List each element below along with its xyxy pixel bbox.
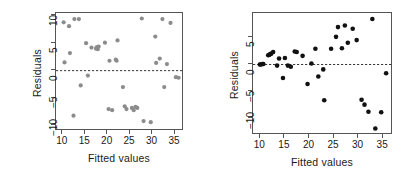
y-tick-label: 0 [245, 69, 256, 75]
y-tick-mark [51, 42, 55, 43]
x-tick-mark [333, 134, 334, 138]
y-tick-label: −10 [245, 112, 256, 129]
right-panel-plot-area [252, 12, 392, 134]
y-tick-label: 5 [48, 48, 59, 54]
x-tick-mark [106, 130, 107, 134]
x-tick-mark [357, 134, 358, 138]
x-tick-label: 35 [160, 135, 188, 146]
x-tick-mark [151, 130, 152, 134]
y-tick-label: −5 [48, 97, 59, 108]
x-tick-mark [283, 134, 284, 138]
right-panel-scatter-points [253, 13, 393, 135]
y-tick-label: −10 [48, 119, 59, 136]
left-panel-plot-area [55, 12, 183, 130]
x-tick-label: 35 [368, 139, 396, 150]
x-tick-mark [382, 134, 383, 138]
x-tick-mark [259, 134, 260, 138]
left-panel: Residuals 101520253035−10−50510 Fitted v… [0, 0, 202, 186]
right-panel-x-axis-label: Fitted values [252, 156, 392, 168]
x-tick-mark [308, 134, 309, 138]
y-tick-label: 0 [48, 75, 59, 81]
left-panel-x-axis-label: Fitted values [55, 152, 183, 164]
right-panel-y-axis-label: Residuals [228, 51, 240, 99]
left-panel-scatter-points [56, 13, 184, 131]
left-panel-y-axis-label: Residuals [31, 49, 43, 97]
x-tick-mark [174, 130, 175, 134]
residual-plot-figure: Residuals 101520253035−10−50510 Fitted v… [0, 0, 404, 186]
right-panel: Residuals 101520253035−10−505 Fitted val… [202, 0, 404, 186]
y-tick-label: 10 [48, 15, 59, 26]
x-tick-mark [84, 130, 85, 134]
y-tick-label: 5 [245, 42, 256, 48]
y-tick-label: −5 [245, 90, 256, 101]
y-tick-mark [248, 63, 252, 64]
y-tick-mark [248, 36, 252, 37]
x-tick-mark [129, 130, 130, 134]
y-tick-mark [51, 69, 55, 70]
x-tick-mark [61, 130, 62, 134]
